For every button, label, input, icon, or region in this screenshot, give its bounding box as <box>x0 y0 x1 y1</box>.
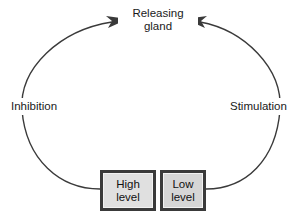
edge-label-inhibition: Inhibition <box>8 98 60 115</box>
node-high-level: High level <box>100 170 156 211</box>
edge-label-stimulation: Stimulation <box>227 98 290 115</box>
node-low-level-line1: Low <box>172 178 193 190</box>
node-releasing-gland-line1: Releasing <box>132 7 183 19</box>
node-high-level-text: High level <box>103 173 153 208</box>
node-high-level-line1: High <box>116 178 140 190</box>
node-low-level-text: Low level <box>163 173 203 208</box>
node-low-level: Low level <box>160 170 206 211</box>
diagram-canvas: Releasing gland Inhibition Stimulation H… <box>0 0 299 216</box>
node-releasing-gland-line2: gland <box>144 20 172 32</box>
node-low-level-line2: level <box>171 191 195 203</box>
node-high-level-line2: level <box>116 191 140 203</box>
node-releasing-gland: Releasing gland <box>118 6 198 34</box>
